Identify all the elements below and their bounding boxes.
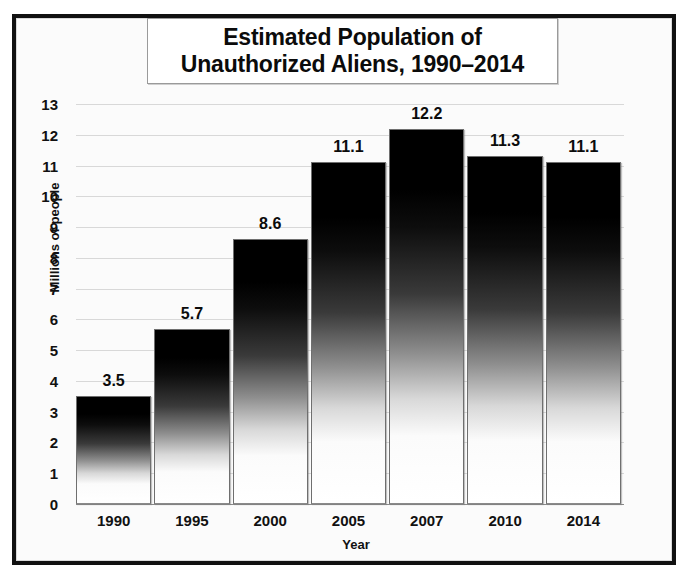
bar-value-label-2014: 11.1 — [546, 138, 621, 156]
x-tick-label-2007: 2007 — [389, 512, 464, 529]
bar-cap — [468, 157, 541, 160]
bar-value-label-2010: 11.3 — [467, 132, 542, 150]
y-tick-label-9: 9 — [50, 219, 58, 236]
x-axis-title: Year — [0, 537, 690, 552]
x-tick-label-2014: 2014 — [546, 512, 621, 529]
y-tick-label-6: 6 — [50, 311, 58, 328]
bar-value-label-1990: 3.5 — [76, 372, 151, 390]
x-tick-label-1995: 1995 — [154, 512, 229, 529]
bar-value-label-2000: 8.6 — [233, 215, 308, 233]
y-tick-label-12: 12 — [41, 126, 58, 143]
y-tick-label-2: 2 — [50, 434, 58, 451]
chart-screenshot: Estimated Population of Unauthorized Ali… — [0, 0, 690, 577]
chart-title-box: Estimated Population of Unauthorized Ali… — [147, 18, 558, 84]
x-axis-title-label: Year — [342, 537, 369, 552]
bar-cap — [77, 397, 150, 400]
bar-cap — [155, 330, 228, 333]
y-axis-ticks: 131211109876543210 — [0, 104, 66, 504]
x-tick-label-1990: 1990 — [76, 512, 151, 529]
y-tick-label-8: 8 — [50, 249, 58, 266]
y-tick-label-5: 5 — [50, 342, 58, 359]
bar-2005 — [311, 162, 386, 504]
y-tick-label-11: 11 — [42, 157, 58, 174]
bar-cap — [312, 163, 385, 166]
bar-cap — [547, 163, 620, 166]
bar-1990 — [76, 396, 151, 504]
gridline-0 — [76, 504, 624, 505]
bar-value-label-1995: 5.7 — [154, 305, 229, 323]
y-tick-label-7: 7 — [50, 280, 58, 297]
bar-2007 — [389, 129, 464, 504]
x-tick-label-2005: 2005 — [311, 512, 386, 529]
bar-2010 — [467, 156, 542, 504]
y-tick-label-0: 0 — [50, 496, 58, 513]
chart-title-line-2: Unauthorized Aliens, 1990–2014 — [181, 51, 524, 78]
chart-title-line-1: Estimated Population of — [223, 24, 482, 51]
y-tick-label-4: 4 — [50, 372, 58, 389]
y-tick-label-13: 13 — [41, 96, 58, 113]
y-tick-label-10: 10 — [41, 188, 58, 205]
bar-cap — [234, 240, 307, 243]
bar-value-label-2005: 11.1 — [311, 138, 386, 156]
y-tick-label-3: 3 — [50, 403, 58, 420]
bar-2014 — [546, 162, 621, 504]
y-tick-label-1: 1 — [50, 465, 58, 482]
bar-cap — [390, 130, 463, 133]
bar-value-label-2007: 12.2 — [389, 105, 464, 123]
bar-2000 — [233, 239, 308, 504]
x-tick-label-2000: 2000 — [233, 512, 308, 529]
x-tick-label-2010: 2010 — [467, 512, 542, 529]
bar-1995 — [154, 329, 229, 504]
